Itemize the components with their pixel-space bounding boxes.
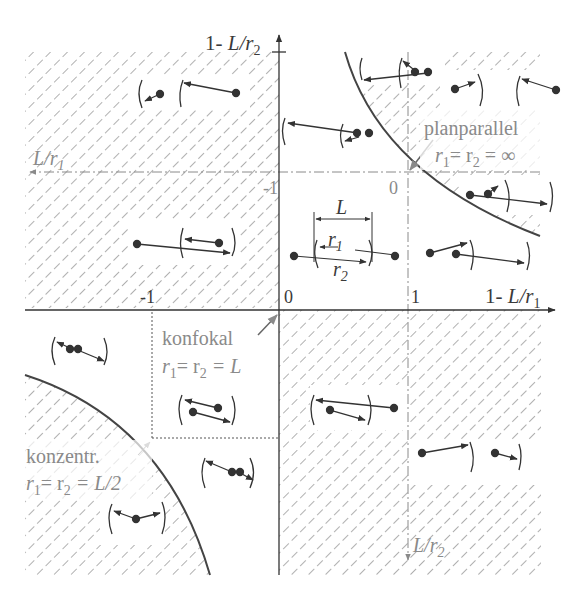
length-label: L [335, 196, 347, 218]
tick-aux-minus1: -1 [263, 178, 278, 198]
konfokal-equation: r1= r2 = L [162, 355, 241, 381]
annotation-planparallel: planparallel r1= r2 = ∞ [420, 110, 570, 170]
resonator-icon [283, 118, 373, 148]
resonator-icon [179, 395, 235, 425]
resonator-inset [291, 212, 399, 268]
planparallel-title: planparallel [424, 117, 519, 140]
stability-diagram: 1- L/r2 1- L/r1 L/r1 L/r2 0 1 -1 -1 0 L … [0, 0, 573, 596]
diagram-canvas: 1- L/r2 1- L/r1 L/r1 L/r2 0 1 -1 -1 0 L … [0, 0, 573, 596]
tick-x-minus1: -1 [140, 287, 155, 307]
r2-label: r2 [333, 258, 348, 284]
annotation-konfokal: konfokal r1= r2 = L [162, 327, 241, 381]
resonator-icon [52, 337, 107, 365]
resonator-icon [202, 458, 254, 488]
x-axis-label: 1- L/r1 [485, 284, 540, 311]
konfokal-arrow-icon [258, 315, 277, 335]
tick-x-0: 0 [284, 287, 293, 307]
tick-x-1: 1 [411, 287, 420, 307]
resonator-icon [427, 240, 530, 270]
konfokal-title: konfokal [162, 327, 234, 349]
r1-label: r1 [328, 228, 343, 254]
inset-labels: L r1 r2 [328, 196, 348, 284]
konzentrisch-title: konzentr. [26, 445, 100, 467]
tick-aux-0: 0 [389, 178, 398, 198]
y-axis-label: 1- L/r2 [205, 31, 260, 58]
annotation-konzentrisch: konzentr. r1= r2 = L/2 [22, 440, 152, 498]
